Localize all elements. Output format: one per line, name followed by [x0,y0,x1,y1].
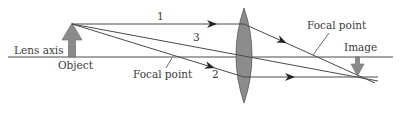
ray-3-label: 3 [193,31,200,43]
object-label: Object [58,59,94,71]
object-arrow-icon [62,23,82,57]
ray-1-refracted [244,24,375,83]
focal-point-left-leader [166,58,172,68]
ray-2-label: 2 [212,68,219,80]
ray-diagram: Lens axis Object Focal point Focal point… [0,0,403,113]
focal-point-left-label: Focal point [133,68,193,80]
image-label: Image [344,41,377,53]
focal-point-right-label: Focal point [307,19,367,31]
focal-point-right-leader [313,33,329,55]
ray-1-label: 1 [157,10,164,22]
lens-axis-label: Lens axis [14,44,64,56]
ray-3 [72,24,378,81]
